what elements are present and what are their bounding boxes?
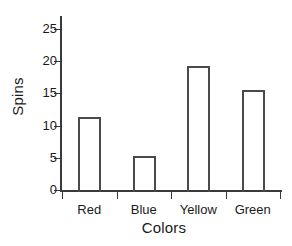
y-axis-tick: 5	[60, 158, 61, 159]
plot-area: 0510152025 RedBlueYellowGreen	[60, 16, 282, 191]
x-axis-tick-label: Red	[62, 202, 117, 218]
x-axis-tick-label: Blue	[117, 202, 172, 218]
bar-yellow	[187, 66, 210, 192]
x-axis-title: Colors	[60, 219, 268, 236]
y-axis-tick: 25	[60, 29, 61, 30]
x-axis-tick-label: Yellow	[171, 202, 226, 218]
y-axis-tick-label: 0	[50, 182, 57, 197]
bar-chart: Spins 0510152025 RedBlueYellowGreen Colo…	[0, 0, 292, 246]
y-axis-tick-label: 10	[43, 118, 57, 133]
x-axis-tick-mark	[280, 192, 281, 199]
x-axis-tick-label: Green	[226, 202, 281, 218]
y-axis-tick-label: 25	[43, 21, 57, 36]
x-axis-tick-mark	[226, 192, 227, 199]
y-axis-tick-label: 5	[50, 150, 57, 165]
y-axis-tick: 20	[60, 61, 61, 62]
x-axis-title-text: Colors	[142, 219, 187, 236]
y-axis-tick-label: 15	[43, 85, 57, 100]
y-axis-tick: 10	[60, 126, 61, 127]
x-axis-tick-mark	[117, 192, 118, 199]
bar-red	[78, 117, 101, 192]
y-axis-line	[60, 16, 62, 192]
y-axis-title: Spins	[4, 0, 30, 192]
x-axis-tick-mark	[62, 192, 63, 199]
y-axis-tick: 15	[60, 93, 61, 94]
y-axis-title-text: Spins	[9, 77, 26, 116]
bar-blue	[133, 156, 156, 192]
bar-green	[242, 90, 265, 192]
y-axis-tick: 0	[60, 190, 61, 191]
x-axis-tick-mark	[171, 192, 172, 199]
y-axis-tick-label: 20	[43, 53, 57, 68]
